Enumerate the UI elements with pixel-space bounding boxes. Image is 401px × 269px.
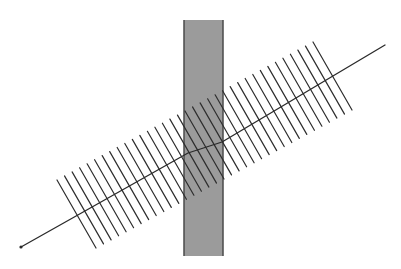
band-fill [184, 20, 223, 256]
hatch-line [253, 75, 292, 143]
hatch-line [72, 172, 111, 240]
hatch-line [57, 180, 96, 248]
start-dot [19, 245, 22, 248]
hatch-line [95, 160, 134, 228]
hatch-line [268, 66, 307, 134]
diagram-svg [0, 0, 401, 269]
hatch-line [238, 83, 277, 151]
hatch-line [298, 50, 337, 118]
hatch-line [245, 79, 284, 147]
hatch-line [65, 176, 104, 244]
grey-band [184, 20, 223, 256]
hatch-line [80, 168, 119, 236]
hatch-line [275, 62, 314, 130]
hatch-line [87, 164, 126, 232]
hatch-line [290, 54, 329, 122]
hatch-line [260, 70, 299, 138]
diagram-canvas [0, 0, 401, 269]
hatch-line [283, 58, 322, 126]
hatch-line [230, 87, 269, 155]
hatch-line [223, 91, 262, 159]
